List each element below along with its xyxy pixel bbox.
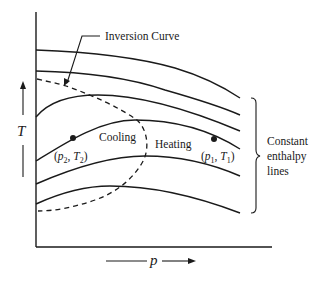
- state-point-2: [70, 135, 76, 141]
- bracket-label-line-2: enthalpy: [267, 150, 307, 163]
- enthalpy-curve-6: [36, 186, 240, 213]
- up-arrow-icon: [20, 81, 26, 89]
- leader-arrowhead-icon: [64, 78, 70, 86]
- enthalpy-curve-3: [36, 95, 240, 131]
- enthalpy-bracket: [251, 98, 260, 213]
- bracket-label-line-1: Constant: [267, 135, 309, 147]
- joule-thomson-diagram: Inversion Curve (p2, T2) (p1, T1) Coolin…: [0, 0, 325, 285]
- inversion-curve: [37, 79, 147, 211]
- enthalpy-curve-2: [36, 71, 240, 115]
- enthalpy-curve-1: [36, 50, 240, 98]
- y-axis-label: T: [17, 123, 27, 139]
- cooling-label: Cooling: [99, 131, 136, 144]
- state-1-label: (p1, T1): [201, 150, 235, 165]
- x-axis-label: p: [149, 252, 158, 268]
- heating-label: Heating: [155, 138, 192, 151]
- state-2-label: (p2, T2): [54, 150, 88, 165]
- bracket-label-line-3: lines: [267, 165, 289, 177]
- inversion-curve-label: Inversion Curve: [105, 30, 179, 42]
- inversion-curve-leader: [67, 36, 100, 83]
- state-point-1: [211, 136, 217, 142]
- right-arrow-icon: [188, 258, 196, 264]
